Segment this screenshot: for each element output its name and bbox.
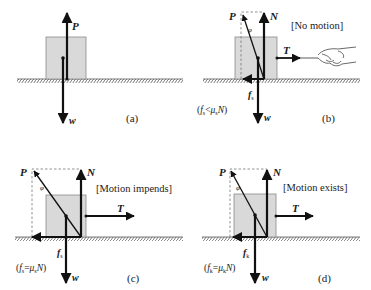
caption-d: (d)	[318, 272, 331, 285]
label-N: N	[272, 166, 282, 178]
state-label: [Motion exists]	[283, 182, 347, 193]
angle-phi: φ	[248, 26, 252, 34]
label-N: N	[269, 10, 279, 22]
label-f: fs	[57, 247, 63, 259]
label-w: w	[262, 272, 269, 283]
label-f: fk	[243, 247, 249, 259]
label-P: P	[229, 10, 236, 22]
panel-b: P N T φ [No motion] fs (fs<μsN) w (b)	[197, 10, 360, 125]
panel-d: P N T φ [Motion exists] fk (fk=μkN) w (d…	[202, 166, 360, 285]
ground	[17, 79, 183, 83]
label-P: P	[20, 166, 27, 178]
label-f: fs	[248, 89, 254, 101]
caption-c: (c)	[127, 272, 140, 285]
ground	[203, 79, 360, 83]
friction-diagram: P w (a) P N T φ [No motion] fs (	[0, 0, 371, 290]
label-N: N	[86, 166, 96, 178]
hand-icon	[318, 47, 356, 66]
label-w: w	[69, 115, 76, 126]
label-T: T	[292, 202, 300, 214]
caption-b: (b)	[322, 112, 335, 125]
ground	[202, 237, 360, 241]
condition-label: (fs=μsN)	[16, 263, 46, 274]
panel-a: P w (a)	[17, 13, 183, 126]
panel-c: P N T φ [Motion impends] fs (fs=μsN) w (…	[15, 166, 183, 285]
label-P: P	[219, 166, 226, 178]
label-w: w	[264, 112, 271, 123]
condition-label: (fk=μkN)	[204, 263, 235, 274]
angle-phi: φ	[236, 184, 240, 192]
label-P: P	[72, 20, 79, 32]
state-label: [No motion]	[291, 20, 343, 31]
condition-label: (fs<μsN)	[197, 105, 227, 116]
label-T: T	[283, 44, 291, 56]
label-w: w	[72, 272, 79, 283]
label-T: T	[117, 202, 125, 214]
angle-phi: φ	[40, 184, 44, 192]
caption-a: (a)	[126, 112, 139, 125]
state-label: [Motion impends]	[96, 183, 172, 194]
